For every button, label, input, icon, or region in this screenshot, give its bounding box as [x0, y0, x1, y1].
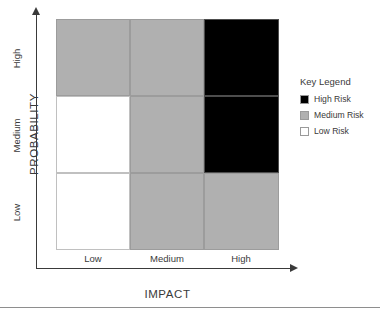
y-axis-title: PROBABILITY [28, 54, 40, 214]
legend-item-label: High Risk [314, 94, 351, 104]
x-axis-tick-high: High [204, 253, 278, 264]
matrix-cell [204, 96, 279, 173]
matrix-cell [204, 173, 279, 250]
y-axis-tick-low: Low [11, 173, 22, 253]
legend-swatch-icon [300, 95, 309, 104]
legend-swatch-icon [300, 127, 309, 136]
matrix-cell [56, 173, 130, 250]
legend-title: Key Legend [300, 76, 378, 87]
x-axis-arrow-icon [290, 264, 298, 272]
x-axis-tick-medium: Medium [130, 253, 204, 264]
legend-item-label: Low Risk [314, 126, 349, 136]
matrix-cell [56, 96, 130, 173]
legend-item-medium-risk: Medium Risk [300, 110, 378, 120]
legend-item-low-risk: Low Risk [300, 126, 378, 136]
y-axis-tick-medium: Medium [11, 96, 22, 176]
x-axis-tick-low: Low [56, 253, 130, 264]
x-axis-title: IMPACT [56, 288, 279, 300]
risk-matrix-grid [56, 19, 279, 250]
y-axis-tick-high: High [11, 19, 22, 99]
matrix-cell [56, 19, 130, 96]
legend-item-label: Medium Risk [314, 110, 364, 120]
risk-matrix-figure: PROBABILITY IMPACT High Medium Low Low M… [0, 0, 380, 314]
matrix-cell [130, 96, 204, 173]
legend-swatch-icon [300, 111, 309, 120]
matrix-cell [204, 19, 279, 96]
x-axis-line [36, 268, 291, 269]
bottom-divider [0, 307, 380, 308]
matrix-cell [130, 173, 204, 250]
legend-item-high-risk: High Risk [300, 94, 378, 104]
y-axis-arrow-icon [32, 7, 40, 15]
matrix-cell [130, 19, 204, 96]
legend: Key Legend High Risk Medium Risk Low Ris… [300, 76, 378, 142]
